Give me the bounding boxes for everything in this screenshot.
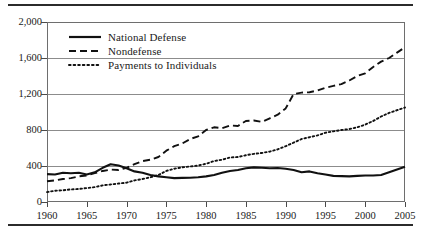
x-tick-label: 2005 [395,211,416,222]
legend-key-solid [68,31,102,43]
legend-key-dotted [68,59,102,71]
x-tick-label: 1985 [235,211,256,222]
x-tick-mark [286,202,287,207]
x-tick-label: 1965 [76,211,97,222]
x-tick-label: 1970 [116,211,137,222]
x-tick-mark [365,202,366,207]
x-tick-mark [87,202,88,207]
legend-item: Nondefense [68,44,253,58]
x-tick-mark [47,202,48,207]
legend-item: National Defense [68,30,253,44]
x-tick-mark [246,202,247,207]
x-tick-label: 1995 [315,211,336,222]
x-tick-mark [405,202,406,207]
x-tick-mark [127,202,128,207]
x-tick-label: 1990 [275,211,296,222]
legend-key-dashed [68,45,102,57]
series-line [47,164,405,178]
x-tick-mark [166,202,167,207]
x-tick-label: 1980 [196,211,217,222]
figure-container: 04008001,2001,6002,000 19601965197019751… [0,0,421,238]
legend-label: Nondefense [108,45,162,57]
x-tick-mark [206,202,207,207]
legend-item: Payments to Individuals [68,58,253,72]
x-tick-label: 2000 [355,211,376,222]
legend-label: National Defense [108,31,186,43]
series-line [47,108,405,193]
x-tick-label: 1960 [37,211,58,222]
x-tick-label: 1975 [156,211,177,222]
x-tick-mark [325,202,326,207]
legend-label: Payments to Individuals [108,59,217,71]
chart-legend: National DefenseNondefensePayments to In… [68,30,253,72]
